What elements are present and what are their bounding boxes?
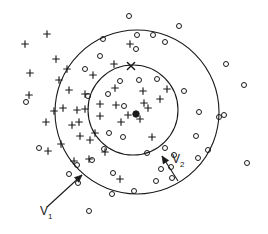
scatter-plot: V 1 V 2 [0, 0, 268, 234]
center-point [133, 111, 139, 117]
label-v1: V [40, 204, 48, 218]
figure-container: V 1 V 2 [0, 0, 268, 234]
label-v2: V [172, 152, 180, 166]
label-v1-subscript: 1 [48, 212, 53, 221]
center-filled-dot [133, 111, 139, 117]
label-v2-subscript: 2 [180, 160, 185, 169]
